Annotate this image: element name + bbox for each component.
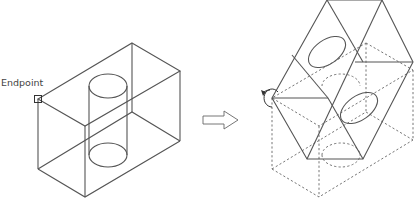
original-box-dashed	[272, 43, 413, 197]
rotated-box-edge	[307, 0, 382, 159]
diagram-canvas: Endpoint	[0, 0, 417, 201]
rotated-box-edge	[292, 55, 328, 98]
box-bottom-edges	[38, 141, 180, 197]
rotated-box-edge	[328, 98, 363, 159]
left-box-figure: Endpoint	[1, 43, 180, 197]
box-bottom-back-edges	[38, 112, 180, 169]
cylinder-bottom	[89, 143, 127, 167]
endpoint-label: Endpoint	[1, 77, 44, 88]
right-arrow-icon	[203, 111, 238, 129]
rotated-box	[272, 0, 413, 159]
rotated-cylinder-top	[303, 30, 351, 74]
rotated-box-outline	[272, 0, 413, 159]
box-top-face	[38, 43, 180, 126]
cylinder-top	[89, 74, 127, 98]
